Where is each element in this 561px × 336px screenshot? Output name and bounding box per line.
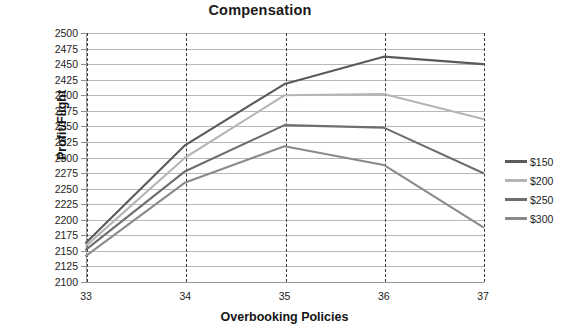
- x-axis-tick-label: 37: [463, 290, 503, 302]
- y-axis-tick-label: 2200: [28, 214, 78, 226]
- y-axis-tick-label: 2150: [28, 245, 78, 257]
- legend-label: $150: [530, 156, 553, 168]
- legend-label: $300: [530, 213, 553, 225]
- x-axis-title: Overbooking Policies: [86, 310, 483, 324]
- y-axis-tick-label: 2325: [28, 136, 78, 148]
- y-axis-tick-label: 2100: [28, 276, 78, 288]
- legend-swatch-icon: [505, 179, 527, 182]
- y-axis-tick-label: 2300: [28, 152, 78, 164]
- category-dashed-line: [484, 33, 485, 282]
- x-axis-tick-label: 36: [364, 290, 404, 302]
- series-line-200: [86, 94, 483, 246]
- y-axis-tick-label: 2125: [28, 260, 78, 272]
- series-lines: [86, 33, 483, 282]
- legend-swatch-icon: [505, 217, 527, 220]
- y-axis-tick-label: 2250: [28, 183, 78, 195]
- legend-label: $200: [530, 175, 553, 187]
- legend: $150$200$250$300: [505, 152, 561, 228]
- series-line-250: [86, 125, 483, 250]
- y-axis-tick-label: 2475: [28, 43, 78, 55]
- legend-item[interactable]: $250: [505, 190, 561, 209]
- legend-item[interactable]: $300: [505, 209, 561, 228]
- legend-swatch-icon: [505, 160, 527, 163]
- y-axis-tick-label: 2225: [28, 198, 78, 210]
- compensation-line-chart: Compensation Profit/Flight 2500247524502…: [0, 0, 561, 336]
- series-line-300: [86, 146, 483, 256]
- y-axis-tick-label: 2275: [28, 167, 78, 179]
- y-axis-tick-label: 2425: [28, 74, 78, 86]
- legend-item[interactable]: $150: [505, 152, 561, 171]
- x-axis-tick-label: 34: [165, 290, 205, 302]
- y-axis-tick-label: 2350: [28, 120, 78, 132]
- y-axis-tick-label: 2400: [28, 89, 78, 101]
- legend-item[interactable]: $200: [505, 171, 561, 190]
- y-axis-tick-label: 2500: [28, 27, 78, 39]
- legend-label: $250: [530, 194, 553, 206]
- chart-title: Compensation: [0, 2, 520, 18]
- legend-swatch-icon: [505, 198, 527, 201]
- y-axis-tick-label: 2450: [28, 58, 78, 70]
- y-axis-tick-label: 2175: [28, 229, 78, 241]
- x-axis-tick-label: 35: [265, 290, 305, 302]
- x-axis-tick-label: 33: [66, 290, 106, 302]
- y-axis-tick-label: 2375: [28, 105, 78, 117]
- series-line-150: [86, 57, 483, 243]
